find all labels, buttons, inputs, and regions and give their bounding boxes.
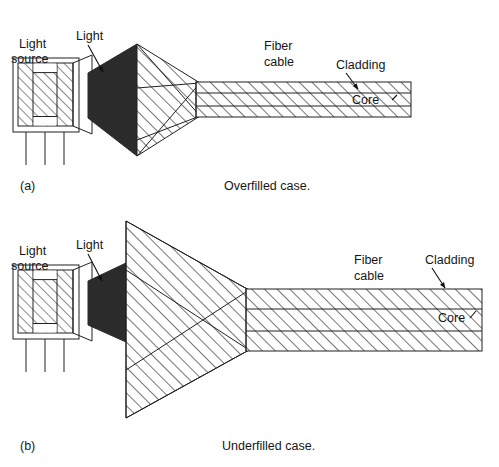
- core-label-b: Core: [438, 311, 465, 325]
- light-label-b: Light: [76, 238, 104, 252]
- figure-root: Light source Light Fiber cable Cladding …: [0, 0, 499, 467]
- fiber-cable-label-line2-b: cable: [354, 269, 384, 283]
- panel-label-b: (b): [20, 439, 35, 453]
- light-source-label-line2-a: source: [11, 52, 49, 66]
- fiber-cable-label-line1-a: Fiber: [264, 39, 292, 53]
- light-source-label-line2-b: source: [11, 259, 49, 273]
- fiber-launch-diagram: Light source Light Fiber cable Cladding …: [0, 0, 499, 467]
- core-label-a: Core: [352, 93, 379, 107]
- fiber-cable-label-line1-b: Fiber: [354, 253, 382, 267]
- panel-caption-b: Underfilled case.: [222, 439, 315, 453]
- light-source-notch-bottom-b: [34, 324, 57, 333]
- light-source-label-line1-a: Light: [19, 37, 47, 51]
- cladding-label-b: Cladding: [425, 253, 474, 267]
- light-label-a: Light: [76, 29, 104, 43]
- panel-caption-a: Overfilled case.: [224, 179, 310, 193]
- cladding-label-a: Cladding: [336, 58, 385, 72]
- fiber-cable-a: [190, 78, 418, 122]
- fiber-cable-label-line2-a: cable: [264, 55, 294, 69]
- light-source-notch-bottom-a: [34, 117, 57, 126]
- light-source-label-line1-b: Light: [19, 244, 47, 258]
- panel-label-a: (a): [20, 179, 35, 193]
- canvas-background: [0, 0, 499, 467]
